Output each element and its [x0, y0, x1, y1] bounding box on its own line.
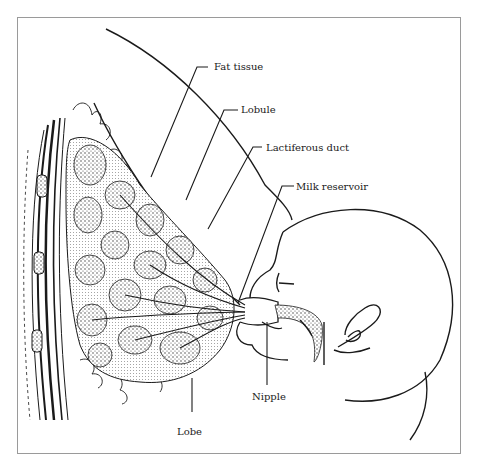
- label-lobule: Lobule: [241, 105, 276, 115]
- label-lactiferous-duct: Lactiferous duct: [266, 143, 349, 153]
- label-fat-tissue: Fat tissue: [214, 62, 263, 72]
- label-lobe: Lobe: [177, 427, 202, 437]
- glandular-lobes: [66, 137, 245, 382]
- label-milk-reservoir: Milk reservoir: [296, 182, 368, 192]
- chest-wall: [24, 118, 68, 420]
- label-nipple: Nipple: [252, 392, 286, 402]
- baby-head: [250, 210, 453, 440]
- milk-stream: [275, 305, 322, 362]
